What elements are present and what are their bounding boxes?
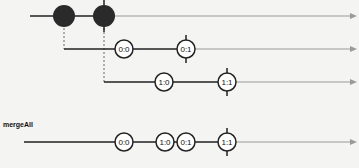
marble-label: 1:0 <box>158 78 170 87</box>
marble-label: 1:0 <box>159 138 171 147</box>
marble-label: 0:1 <box>180 138 192 147</box>
marble-label: 0:0 <box>118 138 130 147</box>
arrow-head-icon <box>350 13 357 19</box>
arrow-head-icon <box>350 46 357 52</box>
marble-label: 0:1 <box>180 45 192 54</box>
operator-label: mergeAll <box>3 121 33 128</box>
arrow-head-icon <box>350 79 357 85</box>
marble-label: 1:1 <box>221 138 233 147</box>
outer-marble <box>53 5 75 27</box>
marble-diagram: 0:00:11:01:10:01:00:11:1 <box>0 0 359 168</box>
arrow-head-icon <box>350 139 357 145</box>
outer-marble <box>93 5 115 27</box>
marble-label: 0:0 <box>118 45 130 54</box>
marble-label: 1:1 <box>221 78 233 87</box>
